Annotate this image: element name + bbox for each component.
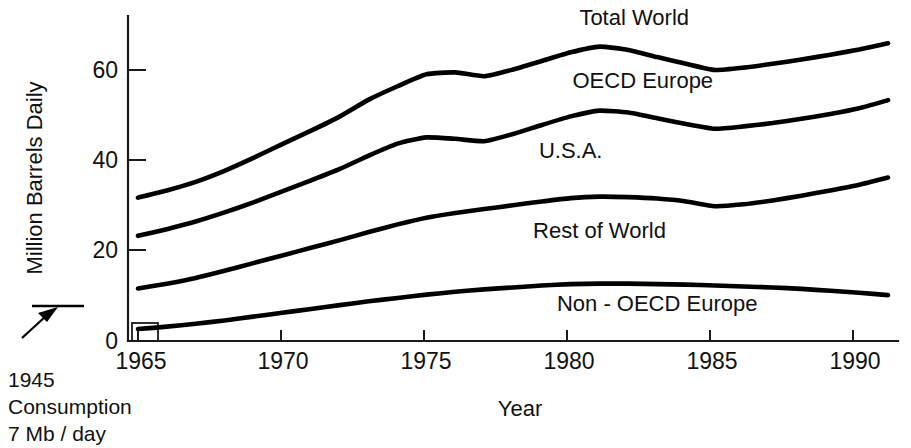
y-tick-label-60: 60: [92, 57, 118, 83]
x-tick-label-1980: 1980: [543, 348, 594, 374]
series-label-oecd-europe: OECD Europe: [572, 68, 713, 93]
annotation-arrow-shaft: [22, 316, 46, 338]
annotation-line-2: Consumption: [8, 395, 132, 418]
x-axis-ticks: [138, 330, 853, 341]
x-axis-title: Year: [498, 396, 542, 421]
series-label-usa: U.S.A.: [539, 138, 603, 163]
y-tick-label-40: 40: [92, 147, 118, 173]
y-axis-title: Million Barrels Daily: [22, 81, 47, 274]
oil-consumption-chart: 60 40 20 0 Million Barrels Daily 1965 19…: [0, 0, 911, 448]
series-label-rest-of-world: Rest of World: [533, 218, 666, 243]
series-line-usa: [138, 178, 888, 289]
series-line-oecd-europe: [138, 100, 888, 236]
series-label-non-oecd-europe: Non - OECD Europe: [557, 291, 758, 316]
annotation-line-3: 7 Mb / day: [8, 422, 107, 445]
x-tick-label-1985: 1985: [686, 348, 737, 374]
series-label-total-world: Total World: [579, 5, 689, 30]
x-tick-label-1965: 1965: [115, 348, 166, 374]
y-tick-label-20: 20: [92, 237, 118, 263]
chart-svg: 60 40 20 0 Million Barrels Daily 1965 19…: [0, 0, 911, 448]
annotation-line-1: 1945: [8, 368, 55, 391]
series-line-rest-of-world: [138, 284, 888, 329]
x-tick-label-1990: 1990: [829, 348, 880, 374]
x-tick-label-1975: 1975: [400, 348, 451, 374]
y-axis-ticks: [128, 70, 146, 250]
x-tick-label-1970: 1970: [257, 348, 308, 374]
annotation-1945: 1945 Consumption 7 Mb / day: [8, 306, 132, 445]
